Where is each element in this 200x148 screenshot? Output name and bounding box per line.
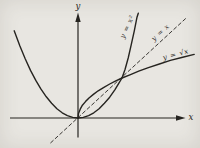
x-axis-label: x [189,113,194,122]
y-axis-arrow-icon [75,13,80,23]
plot-svg [0,0,200,148]
y-axis-label: y [76,2,81,11]
function-comparison-figure: y x y = x² y = x y = √x [0,0,200,148]
curve-parabola [14,13,138,118]
x-axis-arrow-icon [176,115,186,120]
curve-sqrt [78,54,194,118]
